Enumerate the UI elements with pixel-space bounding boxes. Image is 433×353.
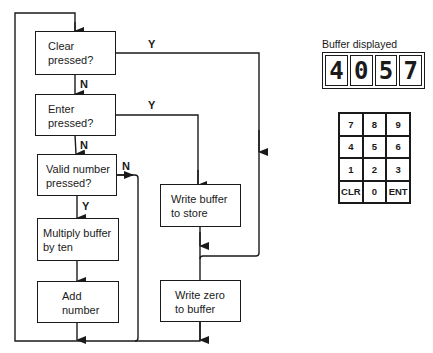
decision-clear-pressed: Clear pressed? [35, 31, 116, 75]
edge-label-valid-no: N [122, 160, 130, 172]
box-text-line1: Write zero [175, 288, 240, 302]
box-text-line2: to buffer [175, 302, 240, 316]
key-clear[interactable]: CLR [339, 181, 363, 204]
buffer-display-label: Buffer displayed [322, 38, 397, 50]
edge-label-valid-yes: Y [82, 200, 89, 212]
decision-valid-number-pressed: Valid number pressed? [37, 154, 117, 196]
edge-label-enter-yes: Y [148, 99, 155, 111]
box-text-line2: to store [171, 206, 240, 220]
key-4[interactable]: 4 [339, 136, 363, 159]
box-text-line1: Valid number [46, 162, 116, 176]
key-7[interactable]: 7 [339, 113, 363, 136]
box-text-line2: pressed? [48, 53, 115, 67]
key-1[interactable]: 1 [339, 158, 363, 181]
display-digit: 4 [325, 55, 348, 86]
keypad: 7 8 9 4 5 6 1 2 3 CLR 0 ENT [338, 112, 411, 204]
box-text-line1: Clear [48, 39, 115, 53]
decision-enter-pressed: Enter pressed? [35, 94, 116, 136]
box-text-line1: Enter [48, 102, 115, 116]
box-text-line2: by ten [43, 240, 118, 254]
key-3[interactable]: 3 [386, 158, 410, 181]
process-write-buffer-to-store: Write buffer to store [160, 184, 241, 227]
process-write-zero-to-buffer: Write zero to buffer [160, 280, 241, 322]
key-enter[interactable]: ENT [386, 181, 410, 204]
box-text-line1: Write buffer [171, 192, 240, 206]
key-5[interactable]: 5 [363, 136, 387, 159]
buffer-display: 4 0 5 7 [322, 52, 425, 89]
display-digit: 5 [375, 55, 398, 86]
process-multiply-buffer: Multiply buffer by ten [37, 218, 119, 261]
display-digit: 0 [350, 55, 373, 86]
key-6[interactable]: 6 [386, 136, 410, 159]
edge-label-clear-no: N [80, 78, 88, 90]
key-9[interactable]: 9 [386, 113, 410, 136]
box-text-line2: pressed? [46, 176, 116, 190]
key-0[interactable]: 0 [363, 181, 387, 204]
key-2[interactable]: 2 [363, 158, 387, 181]
box-text-line2: pressed? [48, 116, 115, 130]
box-text-line1: Multiply buffer [43, 226, 118, 240]
box-text-line1: Add [62, 289, 118, 303]
display-digit: 7 [399, 55, 422, 86]
box-text-line2: number [62, 303, 118, 317]
key-8[interactable]: 8 [363, 113, 387, 136]
edge-label-clear-yes: Y [148, 38, 155, 50]
process-add-number: Add number [37, 281, 119, 323]
edge-label-enter-no: N [80, 139, 88, 151]
